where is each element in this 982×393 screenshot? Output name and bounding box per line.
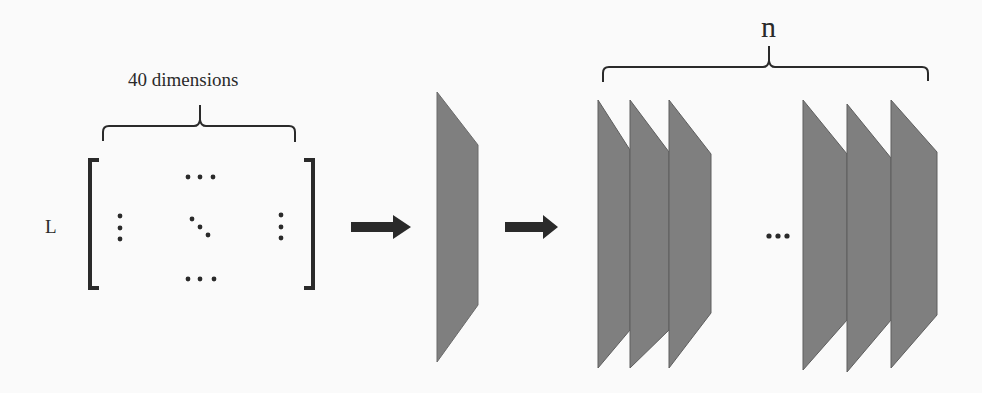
layer-slab-icon bbox=[847, 104, 891, 372]
layer-slab-icon bbox=[598, 100, 630, 368]
layer-slab-icon bbox=[891, 100, 937, 368]
slab-group-2 bbox=[803, 100, 937, 372]
layer-count-brace-icon bbox=[603, 46, 928, 82]
matrix-ellipsis-icon bbox=[118, 175, 284, 282]
matrix-bracket-icon bbox=[90, 160, 313, 288]
group-ellipsis-icon bbox=[766, 233, 789, 238]
layer-slab-icon bbox=[803, 100, 847, 370]
diagram-canvas: 40 dimensions L n bbox=[0, 0, 982, 393]
layer-slab-icon bbox=[630, 100, 669, 368]
matrix-width-brace-icon bbox=[103, 105, 295, 142]
right-arrow-icon bbox=[351, 215, 411, 239]
layer-slab-icon bbox=[437, 92, 478, 362]
diagram-graphics bbox=[0, 0, 982, 393]
layer-slab-icon bbox=[669, 100, 711, 368]
slab-group-1 bbox=[598, 100, 711, 368]
right-arrow-icon bbox=[505, 215, 558, 239]
